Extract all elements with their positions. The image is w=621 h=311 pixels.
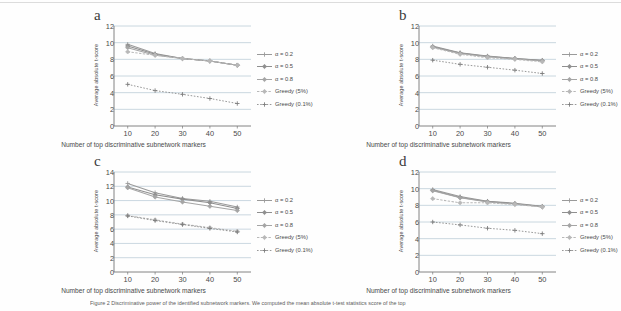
legend-label: α = 0.8: [580, 222, 598, 229]
legend-label: Greedy (0.1%): [275, 247, 313, 254]
legend-item[interactable]: α = 0.8: [257, 73, 313, 86]
series-line: [128, 44, 238, 65]
legend-label: α = 0.5: [580, 63, 598, 70]
x-tick-label: 40: [503, 129, 527, 138]
legend-item[interactable]: α = 0.2: [257, 48, 313, 61]
legend-label: α = 0.8: [275, 76, 293, 83]
legend-swatch-icon: [562, 209, 577, 216]
x-tick-label: 20: [448, 129, 472, 138]
legend-item[interactable]: Greedy (0.1%): [257, 98, 313, 111]
x-axis-ticks: 1020304050: [311, 275, 611, 287]
legend-swatch-icon: [257, 247, 272, 254]
chart-legend: α = 0.2α = 0.5α = 0.8Greedy (5%)Greedy (…: [257, 194, 313, 257]
legend-label: α = 0.2: [275, 197, 293, 204]
x-tick-label: 10: [421, 129, 445, 138]
legend-label: Greedy (5%): [580, 234, 613, 241]
x-tick-label: 10: [421, 275, 445, 284]
x-axis-ticks: 1020304050: [6, 275, 306, 287]
legend-label: α = 0.8: [275, 222, 293, 229]
legend-swatch-icon: [562, 234, 577, 241]
legend-swatch-icon: [562, 197, 577, 204]
x-tick-label: 40: [198, 129, 222, 138]
figure-page: a Average absolute t-score02468101210203…: [0, 0, 621, 311]
legend-item[interactable]: α = 0.5: [562, 207, 618, 220]
legend-label: α = 0.5: [275, 63, 293, 70]
legend-label: α = 0.5: [275, 209, 293, 216]
x-tick-label: 50: [530, 129, 554, 138]
x-tick-label: 30: [171, 129, 195, 138]
x-tick-label: 20: [143, 129, 167, 138]
legend-label: Greedy (5%): [580, 88, 613, 95]
legend-item[interactable]: α = 0.2: [257, 194, 313, 207]
x-axis-label: Number of top discriminative subnetwork …: [311, 287, 566, 294]
legend-swatch-icon: [562, 247, 577, 254]
legend-label: Greedy (0.1%): [275, 101, 313, 108]
x-axis-label: Number of top discriminative subnetwork …: [6, 287, 261, 294]
plot-area-a: Average absolute t-score0246810121020304…: [6, 22, 306, 152]
legend-label: Greedy (5%): [275, 88, 308, 95]
legend-label: Greedy (0.1%): [580, 247, 618, 254]
legend-item[interactable]: α = 0.8: [562, 73, 618, 86]
legend-swatch-icon: [562, 76, 577, 83]
legend-swatch-icon: [562, 88, 577, 95]
legend-item[interactable]: Greedy (0.1%): [562, 98, 618, 111]
legend-item[interactable]: Greedy (0.1%): [257, 244, 313, 257]
legend-item[interactable]: α = 0.2: [562, 194, 618, 207]
x-tick-label: 50: [530, 275, 554, 284]
legend-item[interactable]: Greedy (5%): [257, 232, 313, 245]
legend-label: Greedy (5%): [275, 234, 308, 241]
legend-item[interactable]: Greedy (0.1%): [562, 244, 618, 257]
chart-legend: α = 0.2α = 0.5α = 0.8Greedy (5%)Greedy (…: [562, 48, 618, 111]
legend-swatch-icon: [562, 63, 577, 70]
legend-swatch-icon: [257, 51, 272, 58]
page-top-rule: [0, 2, 621, 3]
legend-swatch-icon: [257, 209, 272, 216]
legend-item[interactable]: Greedy (5%): [562, 86, 618, 99]
legend-swatch-icon: [257, 76, 272, 83]
legend-item[interactable]: α = 0.5: [257, 207, 313, 220]
chart-legend: α = 0.2α = 0.5α = 0.8Greedy (5%)Greedy (…: [257, 48, 313, 111]
plot-area-b: Average absolute t-score0246810121020304…: [311, 22, 611, 152]
legend-swatch-icon: [562, 222, 577, 229]
legend-swatch-icon: [257, 234, 272, 241]
legend-swatch-icon: [257, 222, 272, 229]
x-axis-ticks: 1020304050: [311, 129, 611, 141]
x-tick-label: 10: [116, 275, 140, 284]
x-tick-label: 20: [448, 275, 472, 284]
x-tick-label: 30: [476, 275, 500, 284]
legend-item[interactable]: α = 0.5: [257, 61, 313, 74]
chart-panel-b: b Average absolute t-score02468101210203…: [311, 8, 611, 152]
legend-swatch-icon: [257, 88, 272, 95]
x-tick-label: 20: [143, 275, 167, 284]
x-tick-label: 40: [198, 275, 222, 284]
legend-item[interactable]: Greedy (5%): [562, 232, 618, 245]
x-tick-label: 30: [171, 275, 195, 284]
x-tick-label: 50: [225, 275, 249, 284]
chart-legend: α = 0.2α = 0.5α = 0.8Greedy (5%)Greedy (…: [562, 194, 618, 257]
x-tick-label: 30: [476, 129, 500, 138]
chart-panel-a: a Average absolute t-score02468101210203…: [6, 8, 306, 152]
x-axis-label: Number of top discriminative subnetwork …: [311, 141, 566, 148]
legend-item[interactable]: Greedy (5%): [257, 86, 313, 99]
legend-item[interactable]: α = 0.8: [257, 219, 313, 232]
chart-panel-d: d Average absolute t-score02468101210203…: [311, 154, 611, 298]
legend-label: α = 0.2: [275, 51, 293, 58]
legend-swatch-icon: [562, 51, 577, 58]
plot-area-d: Average absolute t-score0246810121020304…: [311, 168, 611, 298]
legend-swatch-icon: [257, 63, 272, 70]
legend-label: α = 0.8: [580, 76, 598, 83]
legend-swatch-icon: [257, 101, 272, 108]
legend-label: α = 0.2: [580, 51, 598, 58]
x-tick-label: 40: [503, 275, 527, 284]
legend-item[interactable]: α = 0.8: [562, 219, 618, 232]
legend-label: α = 0.5: [580, 209, 598, 216]
figure-area: a Average absolute t-score02468101210203…: [0, 4, 621, 294]
figure-caption: Figure 2 Discriminative power of the ide…: [90, 300, 615, 310]
legend-item[interactable]: α = 0.2: [562, 48, 618, 61]
x-tick-label: 50: [225, 129, 249, 138]
legend-item[interactable]: α = 0.5: [562, 61, 618, 74]
legend-label: α = 0.2: [580, 197, 598, 204]
legend-label: Greedy (0.1%): [580, 101, 618, 108]
chart-panel-c: c Average absolute t-score02468101214102…: [6, 154, 306, 298]
x-axis-ticks: 1020304050: [6, 129, 306, 141]
